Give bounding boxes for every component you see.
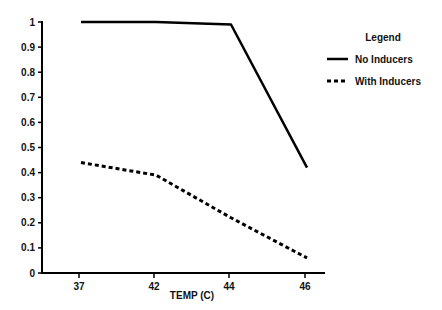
series-line-no-inducers <box>81 22 307 168</box>
y-tick-label: 0.1 <box>21 242 35 253</box>
legend-label: With Inducers <box>355 76 421 87</box>
y-tick-label: 0 <box>29 268 35 279</box>
x-axis-title: TEMP (C) <box>170 290 214 301</box>
y-tick-label: 0.9 <box>21 42 35 53</box>
y-axis: 00.10.20.30.40.50.60.70.80.91 <box>21 17 42 279</box>
y-tick-label: 1 <box>29 17 35 28</box>
x-tick-label: 42 <box>148 281 160 292</box>
legend-item: No Inducers <box>327 54 413 65</box>
x-tick-label: 44 <box>223 281 235 292</box>
legend-title: Legend <box>365 32 401 43</box>
series-layer <box>81 22 307 258</box>
legend-label: No Inducers <box>355 54 413 65</box>
y-tick-label: 0.5 <box>21 142 35 153</box>
x-tick-label: 46 <box>299 281 311 292</box>
series-line-with-inducers <box>81 163 307 258</box>
line-chart: 00.10.20.30.40.50.60.70.80.91 37424446 T… <box>0 0 442 310</box>
legend-item: With Inducers <box>327 76 421 87</box>
y-tick-label: 0.2 <box>21 217 35 228</box>
legend: Legend No InducersWith Inducers <box>327 32 421 87</box>
y-tick-label: 0.8 <box>21 67 35 78</box>
y-tick-label: 0.7 <box>21 92 35 103</box>
y-tick-label: 0.6 <box>21 117 35 128</box>
y-tick-label: 0.4 <box>21 167 35 178</box>
x-tick-label: 37 <box>73 281 85 292</box>
y-tick-label: 0.3 <box>21 192 35 203</box>
